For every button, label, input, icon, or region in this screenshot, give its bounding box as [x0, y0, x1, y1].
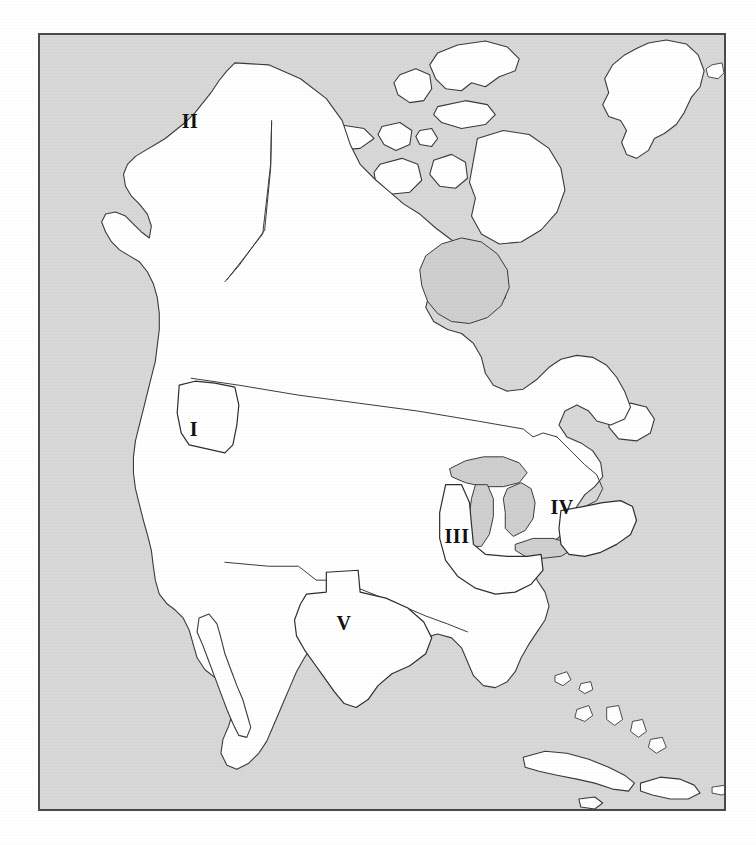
- landmass-puerto-rico: [712, 785, 724, 795]
- map-frame: II I III IV V: [38, 33, 726, 811]
- map-drawing: [40, 35, 724, 809]
- map-figure: II I III IV V: [0, 0, 756, 845]
